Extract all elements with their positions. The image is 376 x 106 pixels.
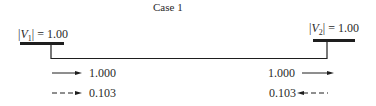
- bus-2-bar: [313, 39, 355, 42]
- left-real-power-value: 1.000: [89, 67, 116, 79]
- left-reactive-power-arrow-icon: [52, 91, 82, 95]
- bus-1-bar: [20, 42, 64, 45]
- left-reactive-power-value: 0.103: [89, 87, 116, 99]
- transmission-line: [51, 42, 327, 59]
- right-real-power-value: 1.000: [268, 67, 295, 79]
- right-reactive-power-value: 0.103: [269, 87, 296, 99]
- one-line-diagram: [0, 0, 376, 106]
- right-real-power-arrow-icon: [302, 71, 334, 75]
- left-real-power-arrow-icon: [52, 71, 82, 75]
- right-reactive-power-arrow-icon: [297, 91, 328, 95]
